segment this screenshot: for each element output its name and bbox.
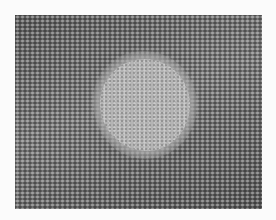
micrograph-image bbox=[15, 15, 262, 209]
amorphous-region bbox=[100, 59, 190, 151]
